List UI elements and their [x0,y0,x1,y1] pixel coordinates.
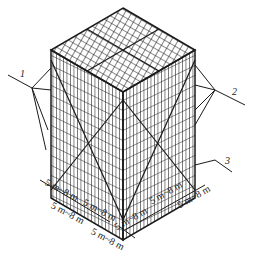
callout-3: 3 [225,155,230,166]
scaffold-diagram: 1 2 3 5 m~8 m 5 m~8 m 5 m~8 m 5 m~8 m 5 … [0,0,254,253]
callout-1: 1 [20,68,25,79]
callout-2: 2 [232,86,237,97]
